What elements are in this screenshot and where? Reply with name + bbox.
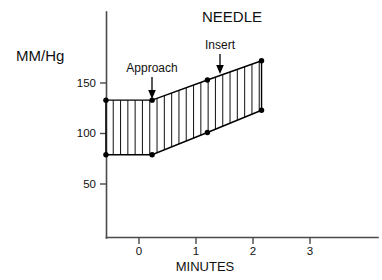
approach-label: Approach [126,61,177,75]
y-tick-label-150: 150 [77,77,96,89]
data-point-diastolic [205,130,210,135]
x-tick-label-3: 3 [307,245,313,257]
data-point-diastolic [103,152,108,157]
needle-blood-pressure-chart: NEEDLE MM/Hg MINUTES 150 100 50 0 1 2 [0,0,382,280]
x-tick-label-1: 1 [193,245,199,257]
y-tick-label-50: 50 [83,178,96,190]
data-point-diastolic [259,108,264,113]
chart-title: NEEDLE [202,8,262,25]
x-tick-label-0: 0 [136,245,142,257]
y-axis-label: MM/Hg [16,47,64,64]
y-tick-label-100: 100 [77,127,96,139]
x-axis-label: MINUTES [176,259,235,274]
data-point-diastolic [149,152,154,157]
data-point-systolic [259,58,264,63]
chart-container: NEEDLE MM/Hg MINUTES 150 100 50 0 1 2 [0,0,382,280]
insert-label: Insert [205,38,236,52]
data-point-systolic [103,97,108,102]
x-tick-label-2: 2 [250,245,256,257]
data-point-systolic [205,77,210,82]
